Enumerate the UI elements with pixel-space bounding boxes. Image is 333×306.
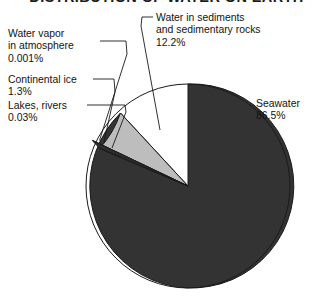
label-sediments-value: 12.2% <box>156 37 261 49</box>
label-sediments-line1: Water in sediments <box>156 12 261 24</box>
label-lakes-rivers-line1: Lakes, rivers <box>8 100 67 112</box>
label-water-vapor: Water vapor in atmosphere 0.001% <box>8 28 74 65</box>
label-water-vapor-line2: in atmosphere <box>8 40 74 52</box>
label-seawater-line1: Seawater <box>256 98 300 110</box>
label-water-vapor-line1: Water vapor <box>8 28 74 40</box>
label-lakes-rivers: Lakes, rivers 0.03% <box>8 100 67 125</box>
label-water-vapor-value: 0.001% <box>8 53 74 65</box>
label-sediments-line2: and sedimentary rocks <box>156 24 261 36</box>
label-lakes-rivers-value: 0.03% <box>8 112 67 124</box>
label-continental-ice-line1: Continental ice <box>8 74 77 86</box>
pie-chart-figure: DISTRIBUTION OF WATER ON EARTH Water vap… <box>0 0 333 306</box>
label-seawater: Seawater 86.5% <box>256 98 300 123</box>
label-sediments: Water in sediments and sedimentary rocks… <box>156 12 261 49</box>
label-seawater-value: 86.5% <box>256 110 300 122</box>
label-continental-ice: Continental ice 1.3% <box>8 74 77 99</box>
label-continental-ice-value: 1.3% <box>8 86 77 98</box>
